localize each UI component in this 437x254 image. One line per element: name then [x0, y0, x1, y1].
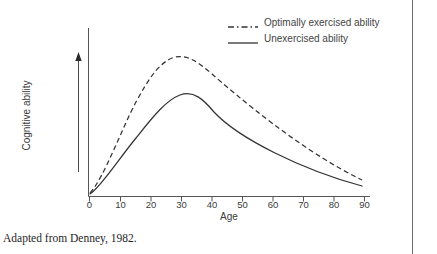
y-axis-title: Cognitive ability	[21, 56, 32, 176]
x-tick-label: 0	[87, 199, 92, 210]
legend-item-optimally-exercised: Optimally exercised ability	[228, 16, 380, 29]
x-tick-label: 70	[298, 199, 309, 210]
x-tick-label: 60	[268, 199, 279, 210]
legend-label-unexercised: Unexercised ability	[264, 33, 348, 44]
x-tick-label: 10	[115, 199, 126, 210]
x-tick-label: 30	[176, 199, 187, 210]
series-line-unexercised	[90, 94, 362, 194]
figure-container: Optimally exercised ability Unexercised …	[0, 0, 437, 254]
x-tick-label: 40	[207, 199, 218, 210]
legend-swatch-dashed-line-icon	[228, 18, 258, 28]
x-tick-label: 80	[329, 199, 340, 210]
x-axis-title: Age	[88, 211, 370, 222]
page-border-right	[412, 0, 413, 254]
x-tick-label: 20	[146, 199, 157, 210]
chart-plot-area: Optimally exercised ability Unexercised …	[0, 0, 412, 228]
legend-swatch-solid-line-icon	[228, 34, 258, 44]
x-tick-label: 90	[359, 199, 370, 210]
legend-item-unexercised: Unexercised ability	[228, 32, 380, 45]
y-axis-arrow-indicator	[75, 52, 81, 172]
x-tick-label: 50	[237, 199, 248, 210]
figure-caption: Adapted from Denney, 1982.	[3, 232, 137, 244]
chart-legend: Optimally exercised ability Unexercised …	[228, 16, 380, 45]
legend-label-optimally-exercised: Optimally exercised ability	[264, 17, 380, 28]
